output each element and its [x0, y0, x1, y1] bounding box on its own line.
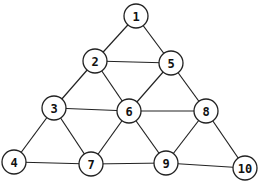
node-label: 10	[238, 162, 252, 176]
graph-diagram: 12536847910	[0, 0, 260, 184]
node-label: 7	[87, 158, 94, 172]
node-label: 1	[132, 10, 139, 24]
node-4: 4	[2, 150, 26, 174]
node-9: 9	[154, 151, 178, 175]
node-2: 2	[83, 49, 107, 73]
node-7: 7	[79, 152, 103, 176]
node-5: 5	[159, 51, 183, 75]
node-3: 3	[42, 96, 66, 120]
nodes-layer: 12536847910	[2, 4, 257, 180]
node-10: 10	[233, 156, 257, 180]
node-1: 1	[124, 4, 148, 28]
graph-svg: 12536847910	[0, 0, 260, 184]
node-label: 6	[125, 105, 132, 119]
edges-layer	[14, 16, 245, 168]
node-label: 8	[202, 105, 209, 119]
node-6: 6	[117, 99, 141, 123]
node-label: 2	[91, 55, 98, 69]
node-label: 4	[10, 156, 17, 170]
node-label: 9	[162, 157, 169, 171]
node-label: 3	[50, 102, 57, 116]
node-label: 5	[167, 57, 174, 71]
node-8: 8	[194, 99, 218, 123]
